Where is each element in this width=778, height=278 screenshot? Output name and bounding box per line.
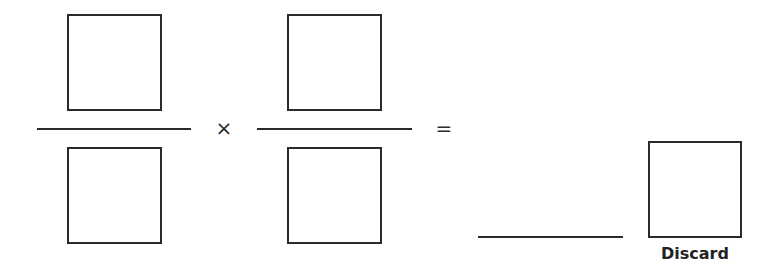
equals-operator: = [434,118,454,138]
fraction2-denominator-dropzone[interactable] [287,147,382,244]
fraction1-numerator-dropzone[interactable] [67,14,162,111]
multiply-operator: × [214,118,234,138]
discard-label: Discard [640,244,750,263]
fraction2-bar [257,128,412,130]
discard-dropzone[interactable] [648,141,742,238]
fraction1-denominator-dropzone[interactable] [67,147,162,244]
answer-line[interactable] [478,236,623,238]
fraction1-bar [37,128,191,130]
fraction2-numerator-dropzone[interactable] [287,14,382,111]
